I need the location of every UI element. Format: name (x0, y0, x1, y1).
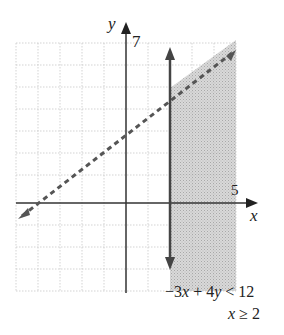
y-axis (121, 22, 131, 293)
x-axis-label: x (250, 206, 258, 226)
inequality-1: −3x + 4y < 12 (165, 283, 254, 301)
y-tick-label: 7 (132, 32, 141, 52)
coordinate-plane (0, 0, 284, 300)
inequality-2: x ≥ 2 (228, 305, 260, 323)
y-axis-label: y (108, 14, 116, 34)
x-tick-label: 5 (231, 182, 239, 199)
shaded-solution-region (170, 40, 236, 291)
